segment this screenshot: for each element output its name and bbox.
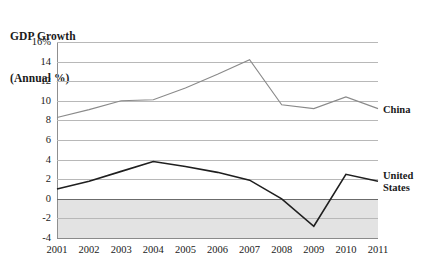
series-lines bbox=[57, 42, 378, 238]
series-label-china: China bbox=[383, 104, 410, 116]
series-label-line: States bbox=[383, 182, 413, 194]
y-tick-label-12: 12 bbox=[3, 76, 51, 87]
y-tick-label-0: 0 bbox=[3, 194, 51, 205]
y-tick-label--4: -4 bbox=[3, 233, 51, 244]
y-tick-label-16: 16% bbox=[3, 37, 51, 48]
x-tick-label-2007: 2007 bbox=[239, 244, 260, 255]
series-line-china bbox=[57, 60, 378, 118]
series-label-line: China bbox=[383, 104, 410, 116]
x-tick-label-2006: 2006 bbox=[207, 244, 228, 255]
y-axis-tick-labels: 16%14121086420-2-4 bbox=[0, 42, 51, 238]
x-tick-label-2005: 2005 bbox=[175, 244, 196, 255]
y-tick-label-8: 8 bbox=[3, 115, 51, 126]
series-line-united-states bbox=[57, 162, 378, 227]
y-tick-label--2: -2 bbox=[3, 213, 51, 224]
y-tick-label-14: 14 bbox=[3, 57, 51, 68]
x-tick-label-2003: 2003 bbox=[111, 244, 132, 255]
plot-area bbox=[57, 42, 378, 238]
x-tick-label-2004: 2004 bbox=[143, 244, 164, 255]
gridline--4 bbox=[57, 238, 378, 239]
x-tick-label-2002: 2002 bbox=[79, 244, 100, 255]
x-tick-label-2010: 2010 bbox=[335, 244, 356, 255]
y-tick-label-4: 4 bbox=[3, 155, 51, 166]
x-tick-label-2001: 2001 bbox=[47, 244, 68, 255]
x-axis-tick-labels: 2001200220032004200520062007200820092010… bbox=[57, 244, 378, 260]
y-tick-label-2: 2 bbox=[3, 174, 51, 185]
gdp-growth-chart: GDP Growth (Annual %) 16%14121086420-2-4… bbox=[0, 0, 434, 272]
series-label-united-states: UnitedStates bbox=[383, 170, 413, 194]
y-tick-label-10: 10 bbox=[3, 96, 51, 107]
x-tick-label-2009: 2009 bbox=[303, 244, 324, 255]
y-tick-label-6: 6 bbox=[3, 135, 51, 146]
x-tick-label-2008: 2008 bbox=[271, 244, 292, 255]
series-label-line: United bbox=[383, 170, 413, 182]
x-tick-label-2011: 2011 bbox=[368, 244, 389, 255]
